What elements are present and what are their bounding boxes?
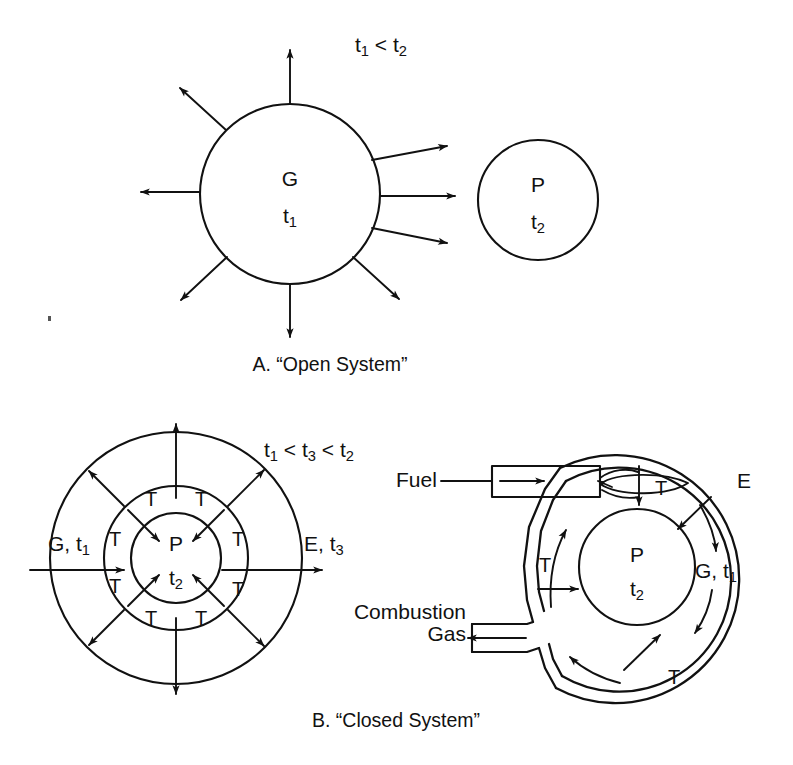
figure-root: t1 < t2 G t1 P t2 A. “Open System” [0,0,793,765]
circulation-arrow-left [551,530,566,607]
shell-arrow-sw-out [89,610,124,645]
burner-lens [600,475,688,493]
transfer-marker-t-sw: T [145,607,157,629]
gas-body-symbol: G [282,167,298,190]
shell-bottom-left-outer-duct [539,648,556,688]
closed-system-condition-label: t1 < t3 < t2 [264,438,354,464]
scan-speck [48,316,51,321]
transfer-marker-t-burner: T [655,477,667,499]
closed-core-symbol: P [169,532,183,555]
shell-arrow-nw-out [89,471,124,506]
product-body-temperature: t2 [531,210,545,236]
transfer-marker-t-ne: T [195,488,207,510]
transfer-marker-t-w-lower: T [109,575,121,597]
closed-core-temperature: t2 [169,566,183,592]
heat-arrow-se-in [624,635,660,670]
exhaust-label-line1: Combustion [354,600,466,623]
open-system-condition-label: t1 < t2 [355,33,407,59]
radiation-arrow-down-right [353,257,399,299]
transfer-marker-t-e-lower: T [232,578,244,600]
shell-arrow-se-out [228,610,264,646]
panel-a-group: t1 < t2 G t1 P t2 A. “Open System” [48,33,598,375]
combustion-core-circle [579,509,695,625]
panel-b-left-group: P t2 t1 < t3 < t2 G, t1 E, t3 T [30,424,354,694]
shell-arrow-ne-in [193,510,224,541]
combustion-core-symbol: P [630,543,644,566]
shell-label-e: E [737,469,751,492]
shell-bottom-left-inner-duct [549,644,562,676]
transfer-marker-t-nw: T [145,488,157,510]
transfer-marker-t-left: T [539,554,551,576]
exhaust-duct-top [472,622,533,624]
transfer-arrow-upper [372,146,447,160]
radiation-arrow-up-left [180,88,226,130]
exhaust-label-line2: Gas [427,622,466,645]
panel-a-caption: A. “Open System” [253,353,408,375]
exhaust-duct-bottom [472,648,539,652]
transfer-marker-t-se: T [195,607,207,629]
transfer-marker-t-bottom: T [668,666,680,688]
combustion-core-temperature: t2 [630,577,644,603]
radiation-arrow-down-left [181,257,227,300]
transfer-marker-t-w-upper: T [109,528,121,550]
heat-arrow-ne-in [678,497,711,529]
panel-b-caption: B. “Closed System” [312,709,480,731]
transfer-marker-t-e-upper: T [232,528,244,550]
panel-b-right-group: Fuel T Combustion Gas P t2 E [312,455,751,731]
shell-arrow-sw-in [128,575,159,606]
inlet-label: G, t1 [48,532,90,558]
shell-arrow-nw-in [128,510,159,541]
gas-body-temperature: t1 [283,204,297,230]
fuel-label: Fuel [396,468,437,491]
transfer-arrow-lower [372,228,447,243]
thermal-system-diagram: t1 < t2 G t1 P t2 A. “Open System” [0,0,793,765]
middle-shell-circle [104,486,248,630]
product-body-circle [478,140,598,260]
product-body-symbol: P [531,173,545,196]
circulation-arrow-lower-right [695,590,712,633]
shell-arrow-ne-out [228,470,264,506]
shell-arrow-se-in [193,575,224,606]
outlet-label: E, t3 [304,532,344,558]
circulation-arrow-bottom [570,657,620,683]
